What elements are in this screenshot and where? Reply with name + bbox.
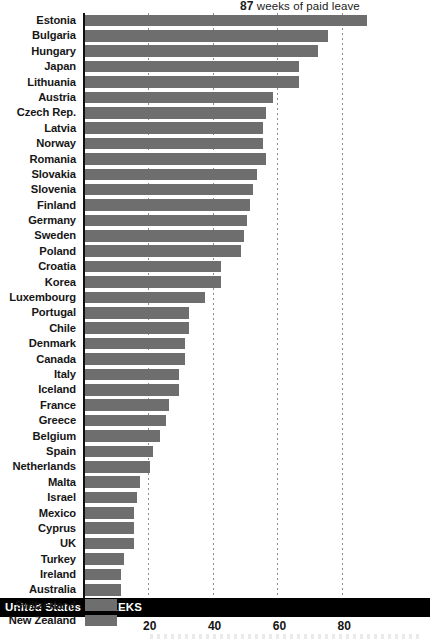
bar-greece [85,415,166,427]
bar-label-poland: Poland [39,244,76,259]
bar-label-romania: Romania [29,152,76,167]
bar-label-slovakia: Slovakia [31,167,76,182]
table-row: Estonia [0,13,430,28]
table-row: Romania [0,152,430,167]
table-row: Belgium [0,429,430,444]
bar-chile [85,322,189,334]
bar-label-canada: Canada [36,352,76,367]
table-row: Ireland [0,567,430,582]
bar-label-norway: Norway [36,136,76,151]
bar-label-portugal: Portugal [31,305,76,320]
bar-slovenia [85,184,253,196]
bar-label-uk: UK [60,536,76,551]
bar-cyprus [85,522,134,534]
bar-label-slovenia: Slovenia [31,182,76,197]
bar-sweden [85,230,244,242]
table-row: Turkey [0,552,430,567]
y-axis-line [83,13,85,598]
bar-luxembourg [85,292,205,304]
bar-label-bulgaria: Bulgaria [32,28,76,43]
bar-bulgaria [85,30,328,42]
table-row: Slovakia [0,167,430,182]
bar-france [85,399,169,411]
bar-poland [85,245,241,257]
bar-label-mexico: Mexico [39,506,76,521]
bar-label-korea: Korea [45,275,76,290]
bar-australia [85,584,121,596]
bar-label-estonia: Estonia [36,13,76,28]
bar-label-czech-rep-: Czech Rep. [17,105,76,120]
bar-korea [85,276,221,288]
bar-latvia [85,122,263,134]
bar-norway [85,138,263,150]
source-note-smudge [150,634,420,639]
table-row: Germany [0,213,430,228]
chart-annotation: 87 weeks of paid leave [240,0,360,13]
bar-belgium [85,430,160,442]
table-row: Australia [0,582,430,597]
bar-finland [85,199,250,211]
bar-label-lithuania: Lithuania [27,75,76,90]
table-row: Poland [0,244,430,259]
table-row: Bulgaria [0,28,430,43]
bar-label-ireland: Ireland [40,567,76,582]
table-row: Croatia [0,259,430,274]
bar-label-turkey: Turkey [41,552,76,567]
bar-japan [85,61,299,73]
table-row: Latvia [0,121,430,136]
bar-label-new-zealand: New Zealand [9,613,76,628]
plot-area: EstoniaBulgariaHungaryJapanLithuaniaAust… [0,13,430,598]
bar-uk [85,538,134,550]
bar-label-switzerland: Switzerland [15,598,76,613]
bar-estonia [85,15,367,27]
bar-label-greece: Greece [39,413,76,428]
bar-malta [85,476,140,488]
bar-label-luxembourg: Luxembourg [9,290,76,305]
bar-spain [85,446,153,458]
bar-hungary [85,45,318,57]
bar-croatia [85,261,221,273]
bar-label-chile: Chile [49,321,76,336]
table-row: Cyprus [0,521,430,536]
bar-label-france: France [40,398,76,413]
table-row: Austria [0,90,430,105]
bar-label-netherlands: Netherlands [12,459,76,474]
bar-label-spain: Spain [46,444,76,459]
table-row: Malta [0,475,430,490]
bar-germany [85,215,247,227]
table-row: Czech Rep. [0,105,430,120]
bar-portugal [85,307,189,319]
bar-label-croatia: Croatia [38,259,76,274]
bar-label-latvia: Latvia [44,121,76,136]
table-row: Canada [0,352,430,367]
bar-austria [85,92,273,104]
table-row: Japan [0,59,430,74]
bar-rows: EstoniaBulgariaHungaryJapanLithuaniaAust… [0,13,430,629]
bar-label-israel: Israel [47,490,76,505]
table-row: New Zealand [0,613,430,628]
bar-label-austria: Austria [38,90,76,105]
bar-label-hungary: Hungary [31,44,76,59]
paid-leave-bar-chart: 87 weeks of paid leave EstoniaBulgariaHu… [0,0,430,641]
bar-canada [85,353,185,365]
table-row: Iceland [0,382,430,397]
table-row: Chile [0,321,430,336]
bar-czech-rep- [85,107,266,119]
table-row: Israel [0,490,430,505]
bar-iceland [85,384,179,396]
table-row: France [0,398,430,413]
table-row: Switzerland [0,598,430,613]
table-row: Netherlands [0,459,430,474]
annotation-label: weeks of paid leave [257,0,360,12]
bar-label-iceland: Iceland [38,382,76,397]
bar-lithuania [85,76,299,88]
bar-label-malta: Malta [48,475,76,490]
table-row: Spain [0,444,430,459]
bar-label-germany: Germany [28,213,76,228]
bar-slovakia [85,169,257,181]
bar-label-denmark: Denmark [29,336,76,351]
bar-label-sweden: Sweden [34,228,76,243]
bar-label-italy: Italy [54,367,76,382]
bar-ireland [85,569,121,581]
bar-label-japan: Japan [44,59,76,74]
